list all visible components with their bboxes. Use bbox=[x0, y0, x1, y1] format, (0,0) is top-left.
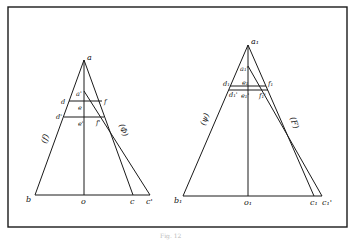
side-a1b1 bbox=[183, 45, 248, 196]
label-d1-prime: d₁' bbox=[229, 91, 238, 99]
label-f-prime: f' bbox=[95, 119, 100, 127]
label-a1: a₁ bbox=[251, 37, 259, 46]
label-c1: c₁ bbox=[310, 198, 318, 207]
side-ab bbox=[35, 60, 84, 195]
label-b1: b₁ bbox=[174, 196, 182, 205]
label-f1-prime: f₁' bbox=[258, 92, 266, 100]
label-c1-prime: c₁' bbox=[322, 198, 332, 207]
label-f: f bbox=[103, 98, 108, 106]
line-a-prime-c-prime bbox=[84, 91, 150, 195]
label-e: e bbox=[78, 104, 82, 112]
label-e-prime: e' bbox=[78, 120, 84, 128]
label-e1-prime: e₁' bbox=[241, 92, 249, 100]
label-a1-prime: a₁' bbox=[240, 65, 248, 73]
label-d: d bbox=[61, 98, 65, 106]
side-a1c1 bbox=[248, 45, 314, 196]
label-c-prime: c' bbox=[146, 197, 153, 206]
label-e1: e₁ bbox=[242, 79, 248, 87]
function-label-f: (f) bbox=[39, 133, 51, 145]
label-d-prime: d' bbox=[56, 113, 62, 121]
figure-caption: Fig. 12 bbox=[160, 232, 182, 240]
function-label-psi: (ψ) bbox=[198, 112, 211, 127]
left-triangle bbox=[35, 60, 150, 195]
label-b: b bbox=[26, 195, 31, 204]
label-d1: d₁ bbox=[223, 80, 230, 88]
function-label-phi: (Φ) bbox=[117, 123, 130, 138]
label-c: c bbox=[130, 197, 135, 206]
label-f1: f₁ bbox=[267, 80, 273, 88]
label-o1: o₁ bbox=[244, 198, 252, 207]
function-label-F: (F) bbox=[288, 116, 300, 130]
label-o: o bbox=[81, 197, 86, 206]
label-a-prime: a' bbox=[76, 90, 82, 98]
geometric-diagram: a a' d d' e e' f f' b o c c' (f) (Φ) a₁ … bbox=[0, 0, 352, 241]
label-a: a bbox=[87, 53, 92, 62]
